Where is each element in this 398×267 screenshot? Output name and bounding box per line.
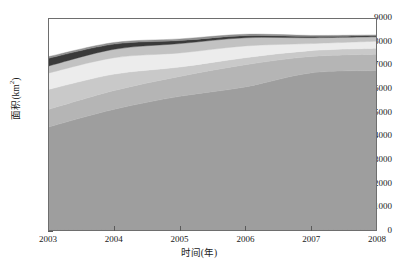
x-tick-label: 2005 <box>160 234 200 244</box>
x-tick-label: 2007 <box>291 234 331 244</box>
x-tick-mark <box>114 226 115 231</box>
x-tick-mark <box>311 226 312 231</box>
x-tick-mark <box>180 226 181 231</box>
x-tick-label: 2003 <box>28 234 68 244</box>
y-axis-title-text: 面积(km <box>11 84 21 119</box>
x-axis-title: 时间(年) <box>0 248 398 258</box>
y-tick-mark <box>48 231 53 232</box>
y-axis-title-superscript: 2 <box>8 81 16 85</box>
x-tick-mark <box>245 226 246 231</box>
x-tick-label: 2008 <box>357 234 397 244</box>
stacked-area-plot <box>49 19 376 230</box>
chart-figure: 面积(km2) 01000200030004000500060007000800… <box>0 0 398 267</box>
y-axis-title: 面积(km2) <box>7 59 20 139</box>
x-tick-label: 2004 <box>94 234 134 244</box>
plot-area <box>48 18 377 231</box>
x-tick-label: 2006 <box>225 234 265 244</box>
y-axis-title-tail: ) <box>11 78 21 81</box>
